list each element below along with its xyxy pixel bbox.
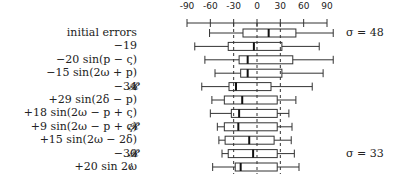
box [224,123,277,131]
box-plot [0,0,397,183]
box [224,96,277,104]
box [228,42,282,50]
